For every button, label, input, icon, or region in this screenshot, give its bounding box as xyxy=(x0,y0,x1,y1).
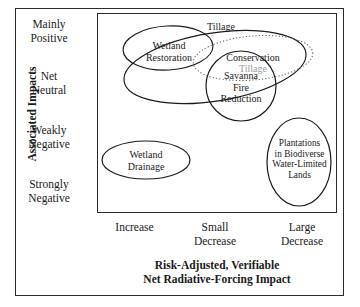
y-tick-weakly-negative: Weakly Negative xyxy=(6,124,92,151)
y-tick-line2: Neutral xyxy=(6,84,92,98)
y-tick-line1: Weakly xyxy=(6,124,92,138)
ellipse-tillage xyxy=(119,19,311,115)
x-axis-title: Risk-Adjusted, Verifiable Net Radiative-… xyxy=(97,258,337,286)
x-tick-line2: Decrease xyxy=(176,235,254,249)
x-tick-line1: Small xyxy=(176,221,254,235)
y-tick-line2: Negative xyxy=(6,138,92,152)
figure-container: Associated Impacts Mainly Positive Net N… xyxy=(0,0,360,307)
x-tick-line1: Large xyxy=(263,221,341,235)
x-axis-title-line1: Risk-Adjusted, Verifiable xyxy=(97,258,337,272)
y-tick-line2: Negative xyxy=(6,192,92,206)
x-tick-line2: Decrease xyxy=(263,235,341,249)
y-tick-net-neutral: Net Neutral xyxy=(6,70,92,97)
y-tick-line1: Mainly xyxy=(6,18,92,32)
plot-area: Wetland Restoration Tillage Conservation… xyxy=(97,13,337,213)
y-axis-title: Associated Impacts xyxy=(26,24,38,204)
ellipse-wetland-restoration xyxy=(122,24,214,73)
y-tick-line1: Net xyxy=(6,70,92,84)
ellipse-plantations xyxy=(267,118,331,206)
y-tick-mainly-positive: Mainly Positive xyxy=(6,18,92,45)
ellipse-conservation-tillage xyxy=(191,31,314,85)
x-tick-large-decrease: Large Decrease xyxy=(263,221,341,248)
x-tick-line1: Increase xyxy=(97,221,172,235)
x-axis-title-line2: Net Radiative-Forcing Impact xyxy=(97,272,337,286)
ellipse-wetland-drainage xyxy=(102,141,190,179)
y-tick-line1: Strongly xyxy=(6,178,92,192)
x-tick-increase: Increase xyxy=(97,221,172,235)
plot-shapes xyxy=(98,14,338,214)
ellipse-savanna-fire-reduction xyxy=(206,51,276,121)
y-tick-strongly-negative: Strongly Negative xyxy=(6,178,92,205)
y-tick-line2: Positive xyxy=(6,32,92,46)
x-tick-small-decrease: Small Decrease xyxy=(176,221,254,248)
